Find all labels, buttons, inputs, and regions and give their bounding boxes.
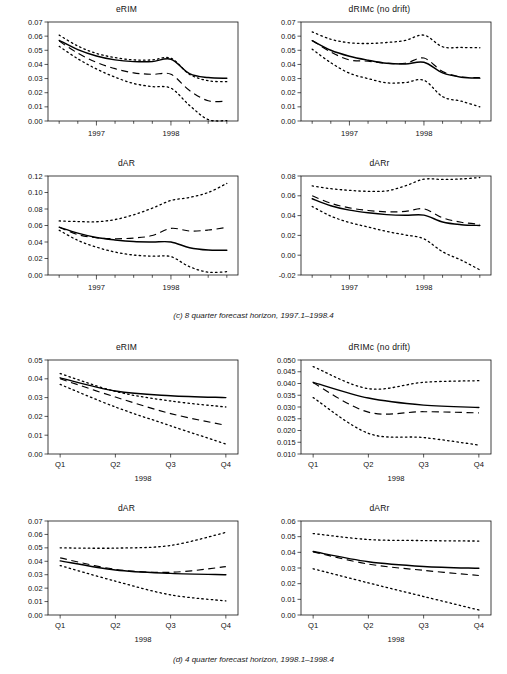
svg-text:0.02: 0.02 bbox=[28, 254, 42, 263]
svg-text:0.06: 0.06 bbox=[28, 32, 42, 41]
svg-text:0.010: 0.010 bbox=[277, 450, 296, 459]
forecast-figure: eRIM 0.000.010.020.030.040.050.060.07199… bbox=[0, 0, 507, 674]
svg-text:0.030: 0.030 bbox=[277, 403, 296, 412]
svg-text:Q2: Q2 bbox=[363, 621, 373, 630]
svg-text:0.04: 0.04 bbox=[281, 60, 295, 69]
svg-text:0.04: 0.04 bbox=[28, 374, 42, 383]
svg-text:0.07: 0.07 bbox=[28, 517, 42, 526]
panel-title: dAR bbox=[0, 503, 253, 513]
svg-text:1998: 1998 bbox=[388, 474, 405, 483]
svg-text:0.02: 0.02 bbox=[28, 412, 42, 421]
svg-text:0.04: 0.04 bbox=[28, 557, 42, 566]
svg-text:0.05: 0.05 bbox=[28, 46, 42, 55]
svg-text:Q1: Q1 bbox=[308, 621, 318, 630]
svg-text:Q4: Q4 bbox=[221, 460, 231, 469]
panel-title: dARr bbox=[253, 503, 506, 513]
plot-area: 0.000.010.020.030.040.050.060.0719971998 bbox=[0, 4, 253, 154]
svg-text:0.03: 0.03 bbox=[281, 74, 295, 83]
panel-title: dARr bbox=[253, 158, 506, 168]
svg-text:0.00: 0.00 bbox=[28, 611, 42, 620]
svg-text:Q3: Q3 bbox=[419, 621, 429, 630]
svg-text:0.01: 0.01 bbox=[281, 595, 295, 604]
plot-area: 0.000.010.020.030.040.050.06Q1Q2Q3Q41998 bbox=[253, 503, 506, 658]
svg-text:0.00: 0.00 bbox=[28, 271, 42, 280]
svg-text:0.10: 0.10 bbox=[28, 188, 42, 197]
svg-text:0.025: 0.025 bbox=[277, 414, 296, 423]
svg-text:0.06: 0.06 bbox=[281, 191, 295, 200]
caption-d: (d) 4 quarter forecast horizon, 1998.1–1… bbox=[0, 655, 507, 664]
svg-text:Q4: Q4 bbox=[474, 621, 484, 630]
chart-panel-d-dar: dAR 0.000.010.020.030.040.050.060.07Q1Q2… bbox=[0, 503, 253, 658]
svg-text:0.00: 0.00 bbox=[281, 117, 295, 126]
svg-text:1998: 1998 bbox=[135, 635, 152, 644]
svg-text:0.12: 0.12 bbox=[28, 172, 42, 181]
chart-panel-d-darr: dARr 0.000.010.020.030.040.050.06Q1Q2Q3Q… bbox=[253, 503, 506, 658]
svg-text:0.03: 0.03 bbox=[28, 393, 42, 402]
svg-text:0.02: 0.02 bbox=[281, 231, 295, 240]
svg-text:0.05: 0.05 bbox=[281, 46, 295, 55]
svg-text:0.07: 0.07 bbox=[28, 18, 42, 27]
svg-text:1998: 1998 bbox=[162, 129, 179, 138]
chart-panel-c-drimc: dRIMc (no drift) 0.000.010.020.030.040.0… bbox=[253, 4, 506, 154]
plot-area: 0.0100.0150.0200.0250.0300.0350.0400.045… bbox=[253, 342, 506, 497]
svg-text:0.03: 0.03 bbox=[28, 570, 42, 579]
svg-text:0.05: 0.05 bbox=[28, 543, 42, 552]
svg-text:0.01: 0.01 bbox=[28, 597, 42, 606]
svg-text:0.04: 0.04 bbox=[28, 60, 42, 69]
svg-text:0.02: 0.02 bbox=[28, 88, 42, 97]
svg-text:0.045: 0.045 bbox=[277, 367, 296, 376]
svg-text:0.035: 0.035 bbox=[277, 391, 296, 400]
svg-text:0.04: 0.04 bbox=[28, 238, 42, 247]
svg-text:0.02: 0.02 bbox=[281, 579, 295, 588]
panel-title: eRIM bbox=[0, 342, 253, 352]
svg-text:0.01: 0.01 bbox=[28, 102, 42, 111]
svg-text:0.08: 0.08 bbox=[281, 172, 295, 181]
svg-text:0.02: 0.02 bbox=[281, 88, 295, 97]
svg-text:Q2: Q2 bbox=[110, 621, 120, 630]
svg-text:0.00: 0.00 bbox=[281, 611, 295, 620]
panel-title: dRIMc (no drift) bbox=[253, 342, 506, 352]
svg-text:0.03: 0.03 bbox=[28, 74, 42, 83]
svg-text:0.00: 0.00 bbox=[28, 117, 42, 126]
chart-panel-d-erim: eRIM 0.000.010.020.030.040.05Q1Q2Q3Q4199… bbox=[0, 342, 253, 497]
svg-text:1998: 1998 bbox=[135, 474, 152, 483]
svg-text:0.04: 0.04 bbox=[281, 211, 295, 220]
svg-text:0.06: 0.06 bbox=[28, 221, 42, 230]
panel-title: eRIM bbox=[0, 4, 253, 14]
svg-text:1998: 1998 bbox=[162, 283, 179, 292]
svg-text:0.00: 0.00 bbox=[28, 450, 42, 459]
svg-text:0.02: 0.02 bbox=[28, 584, 42, 593]
svg-text:1997: 1997 bbox=[88, 129, 105, 138]
chart-panel-d-drimc: dRIMc (no drift) 0.0100.0150.0200.0250.0… bbox=[253, 342, 506, 497]
plot-area: 0.000.020.040.060.080.100.1219971998 bbox=[0, 158, 253, 308]
svg-text:-0.02: -0.02 bbox=[279, 271, 296, 280]
plot-area: -0.020.000.020.040.060.0819971998 bbox=[253, 158, 506, 308]
plot-area: 0.000.010.020.030.040.05Q1Q2Q3Q41998 bbox=[0, 342, 253, 497]
svg-text:0.015: 0.015 bbox=[277, 438, 296, 447]
svg-text:Q4: Q4 bbox=[221, 621, 231, 630]
svg-text:0.040: 0.040 bbox=[277, 379, 296, 388]
svg-text:Q3: Q3 bbox=[419, 460, 429, 469]
svg-text:1997: 1997 bbox=[341, 129, 358, 138]
svg-text:0.05: 0.05 bbox=[281, 532, 295, 541]
chart-panel-c-dar: dAR 0.000.020.040.060.080.100.1219971998 bbox=[0, 158, 253, 308]
svg-text:Q3: Q3 bbox=[166, 460, 176, 469]
svg-text:0.04: 0.04 bbox=[281, 548, 295, 557]
svg-text:0.05: 0.05 bbox=[28, 356, 42, 365]
svg-text:Q1: Q1 bbox=[308, 460, 318, 469]
svg-text:Q4: Q4 bbox=[474, 460, 484, 469]
svg-text:1997: 1997 bbox=[88, 283, 105, 292]
svg-text:0.08: 0.08 bbox=[28, 205, 42, 214]
svg-text:0.01: 0.01 bbox=[28, 431, 42, 440]
chart-panel-c-darr: dARr -0.020.000.020.040.060.0819971998 bbox=[253, 158, 506, 308]
plot-area: 0.000.010.020.030.040.050.060.07Q1Q2Q3Q4… bbox=[0, 503, 253, 658]
svg-text:Q1: Q1 bbox=[55, 621, 65, 630]
svg-text:0.00: 0.00 bbox=[281, 251, 295, 260]
svg-text:0.07: 0.07 bbox=[281, 18, 295, 27]
svg-text:1997: 1997 bbox=[341, 283, 358, 292]
svg-text:Q3: Q3 bbox=[166, 621, 176, 630]
caption-c: (c) 8 quarter forecast horizon, 1997.1–1… bbox=[0, 311, 507, 320]
svg-text:0.06: 0.06 bbox=[28, 530, 42, 539]
svg-text:0.020: 0.020 bbox=[277, 426, 296, 435]
svg-text:Q2: Q2 bbox=[363, 460, 373, 469]
